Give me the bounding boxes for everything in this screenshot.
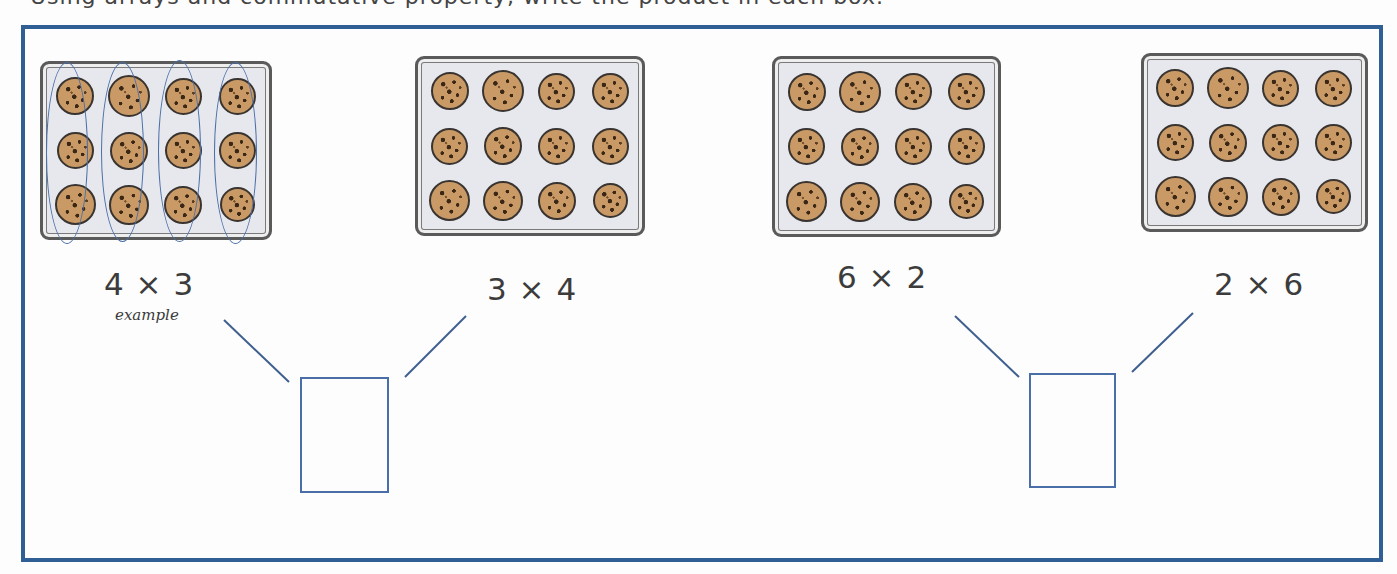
cookie-icon bbox=[220, 187, 255, 222]
cookie-icon bbox=[1315, 124, 1352, 161]
answer-box-2[interactable] bbox=[1029, 373, 1116, 488]
cookie-icon bbox=[593, 183, 628, 218]
cookie-icon bbox=[841, 128, 879, 166]
cookie-icon bbox=[538, 128, 575, 165]
cookie-icon bbox=[1155, 176, 1196, 217]
cookie-icon bbox=[894, 183, 932, 221]
cookie-icon bbox=[1208, 177, 1248, 217]
cookie-icon bbox=[839, 71, 881, 113]
cookie-icon bbox=[1207, 67, 1249, 109]
cookie-icon bbox=[788, 128, 825, 165]
array-label-4: 2 × 6 bbox=[1214, 266, 1304, 302]
cookie-icon bbox=[840, 182, 880, 222]
answer-box-1[interactable] bbox=[300, 377, 389, 493]
array-label-1: 4 × 3 bbox=[104, 266, 194, 302]
cookie-icon bbox=[164, 186, 202, 224]
cookie-icon bbox=[56, 77, 94, 115]
cookie-icon bbox=[895, 128, 932, 165]
cookie-icon bbox=[786, 181, 827, 222]
example-note: example bbox=[115, 306, 179, 324]
cookie-icon bbox=[1262, 178, 1300, 216]
cookie-icon bbox=[1262, 70, 1299, 107]
cookie-icon bbox=[165, 78, 202, 115]
cookie-icon bbox=[538, 73, 575, 110]
cookie-icon bbox=[948, 128, 985, 165]
cookie-icon bbox=[108, 75, 150, 117]
cookie-icon bbox=[57, 132, 94, 169]
cookie-icon bbox=[1157, 124, 1194, 161]
cookie-icon bbox=[895, 73, 932, 110]
cookie-icon bbox=[538, 182, 576, 220]
cookie-icon bbox=[484, 127, 522, 165]
cutoff-instruction-text: Using arrays and commutative property, w… bbox=[30, 0, 1370, 8]
cookie-icon bbox=[1209, 124, 1247, 162]
cookie-icon bbox=[948, 73, 985, 110]
cookie-icon bbox=[592, 128, 629, 165]
cookie-icon bbox=[219, 78, 256, 115]
cookie-icon bbox=[592, 73, 629, 110]
cookie-icon bbox=[1315, 70, 1352, 107]
cookie-icon bbox=[949, 184, 984, 219]
cookie-icon bbox=[165, 132, 202, 169]
array-label-2: 3 × 4 bbox=[487, 271, 577, 307]
cookie-icon bbox=[788, 73, 826, 111]
cookie-icon bbox=[431, 128, 468, 165]
cookie-icon bbox=[55, 184, 96, 225]
cookie-icon bbox=[431, 72, 469, 110]
cookie-icon bbox=[483, 181, 523, 221]
array-label-3: 6 × 2 bbox=[837, 259, 927, 295]
cookie-icon bbox=[109, 185, 149, 225]
cookie-icon bbox=[110, 132, 148, 170]
cookie-icon bbox=[219, 132, 256, 169]
